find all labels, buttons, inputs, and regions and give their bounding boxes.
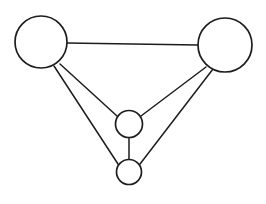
graph-diagram	[0, 0, 266, 204]
graph-edge-a-b	[67, 43, 198, 45]
edges-layer	[54, 43, 213, 164]
graph-node-a[interactable]	[15, 16, 67, 68]
graph-edge-b-d	[140, 69, 213, 164]
graph-node-b[interactable]	[198, 18, 252, 72]
graph-node-d[interactable]	[117, 160, 142, 185]
graph-edge-a-c	[60, 64, 117, 116]
graph-diagram-canvas	[0, 0, 266, 204]
graph-node-c[interactable]	[116, 111, 143, 138]
nodes-layer	[15, 16, 252, 185]
graph-edge-a-d	[54, 66, 118, 164]
